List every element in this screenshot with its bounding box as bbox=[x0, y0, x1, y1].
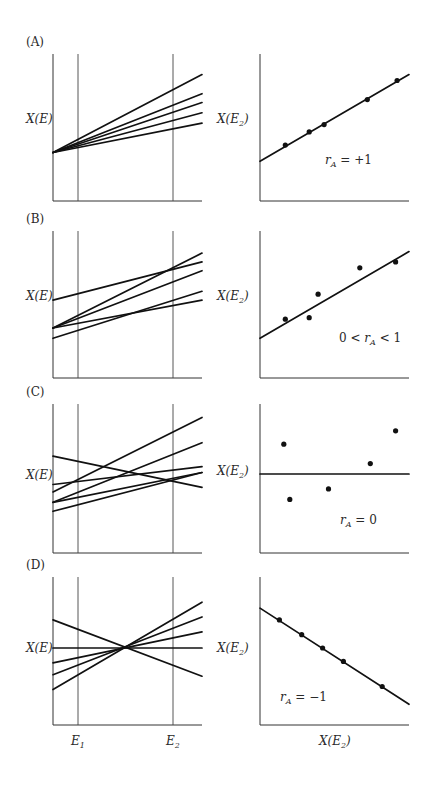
reaction-norm-line bbox=[53, 602, 202, 689]
panel-d-reaction-norms: (D)X(E) bbox=[25, 558, 202, 725]
y-axis-label: X(E2) bbox=[216, 112, 249, 128]
y-axis-label: X(E) bbox=[25, 641, 53, 655]
panel-a-scatter: X(E2)rA = +1 bbox=[216, 54, 409, 201]
data-point bbox=[357, 265, 362, 270]
reaction-norm-line bbox=[53, 443, 202, 503]
data-point bbox=[281, 442, 286, 447]
data-point bbox=[299, 632, 304, 637]
panel-label: (A) bbox=[26, 35, 44, 49]
data-point bbox=[395, 78, 400, 83]
data-point bbox=[283, 143, 288, 148]
data-point bbox=[307, 315, 312, 320]
right-x-axis-label: X(E2) bbox=[318, 734, 351, 750]
reaction-norm-line bbox=[53, 94, 202, 153]
data-point bbox=[380, 684, 385, 689]
reaction-norm-line bbox=[53, 291, 202, 338]
y-axis-label: X(E2) bbox=[216, 289, 249, 305]
data-point bbox=[287, 497, 292, 502]
data-point bbox=[277, 617, 282, 622]
reaction-norm-line bbox=[53, 473, 202, 512]
correlation-annotation: 0 < rA < 1 bbox=[339, 331, 401, 347]
bottom-x-labels: E1E2X(E2) bbox=[70, 734, 351, 750]
data-point bbox=[320, 645, 325, 650]
data-point bbox=[368, 461, 373, 466]
data-point bbox=[322, 122, 327, 127]
panel-label: (B) bbox=[26, 212, 44, 226]
data-point bbox=[316, 292, 321, 297]
data-point bbox=[365, 97, 370, 102]
reaction-norm-line bbox=[53, 473, 202, 503]
reaction-norm-line bbox=[53, 253, 202, 328]
panel-c-reaction-norms: (C)X(E) bbox=[25, 385, 202, 553]
panel-d-scatter: X(E2)rA = −1 bbox=[216, 577, 409, 725]
panel-label: (D) bbox=[26, 558, 45, 572]
y-axis-label: X(E) bbox=[25, 289, 53, 303]
correlation-annotation: rA = +1 bbox=[325, 153, 372, 169]
data-point bbox=[283, 317, 288, 322]
panel-label: (C) bbox=[26, 385, 45, 399]
y-axis-label: X(E) bbox=[25, 112, 53, 126]
regression-line bbox=[260, 252, 409, 339]
reaction-norm-line bbox=[53, 417, 202, 492]
reaction-norm-line bbox=[53, 75, 202, 153]
y-axis-label: X(E2) bbox=[216, 464, 249, 480]
panel-a-reaction-norms: (A)X(E) bbox=[25, 35, 202, 201]
panel-b-scatter: X(E2)0 < rA < 1 bbox=[216, 231, 409, 378]
panel-c-scatter: X(E2)rA = 0 bbox=[216, 404, 409, 553]
x-tick-e2: E2 bbox=[165, 734, 180, 750]
data-point bbox=[341, 659, 346, 664]
reaction-norm-line bbox=[53, 262, 202, 300]
correlation-annotation: rA = −1 bbox=[280, 690, 327, 706]
x-tick-e1: E1 bbox=[70, 734, 85, 750]
panel-b-reaction-norms: (B)X(E) bbox=[25, 212, 202, 378]
reaction-norm-line bbox=[53, 271, 202, 328]
y-axis-label: X(E) bbox=[25, 468, 53, 482]
data-point bbox=[326, 486, 331, 491]
reaction-norm-line bbox=[53, 467, 202, 485]
data-point bbox=[393, 428, 398, 433]
figure: (A)X(E)X(E2)rA = +1(B)X(E)X(E2)0 < rA < … bbox=[0, 0, 427, 790]
regression-line bbox=[260, 75, 409, 162]
correlation-annotation: rA = 0 bbox=[340, 513, 377, 529]
data-point bbox=[307, 129, 312, 134]
data-point bbox=[393, 259, 398, 264]
y-axis-label: X(E2) bbox=[216, 641, 249, 657]
reaction-norm-line bbox=[53, 113, 202, 153]
